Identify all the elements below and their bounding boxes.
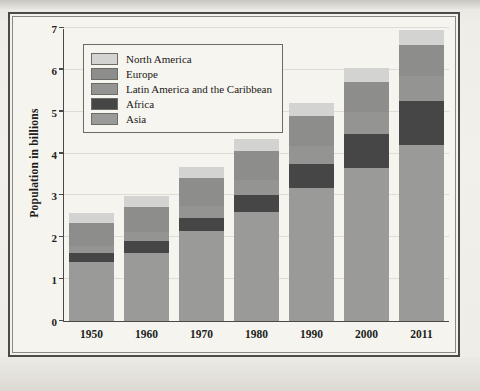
bar-segment-2000-asia[interactable] [344,168,389,321]
legend-swatch-icon [91,53,118,65]
legend-item-north-america[interactable]: North America [91,51,272,66]
bar-group-1990[interactable]: 1990 [289,29,334,321]
bar-segment-1970-north-america[interactable] [179,167,224,178]
bar-segment-1970-africa[interactable] [179,218,224,231]
bar-segment-1950-africa[interactable] [69,253,114,263]
legend-item-label: North America [126,53,192,65]
bar-segment-1990-europe[interactable] [289,116,334,146]
legend-swatch-icon [91,68,118,80]
y-axis-tick-7: 7 [35,23,57,35]
bar-segment-1960-europe[interactable] [124,207,169,232]
bar-segment-1980-latin-america-and-the-caribbean[interactable] [234,180,279,195]
y-axis-tick-4: 4 [35,149,57,161]
bar-segment-1960-asia[interactable] [124,253,169,321]
legend-swatch-icon [91,83,118,95]
y-axis-tick-1: 1 [35,274,57,286]
gridline-7 [64,27,449,28]
chart-figure-frame: Population in billions 01234567 19501960… [8,12,460,357]
bar-segment-1990-asia[interactable] [289,188,334,321]
legend-item-asia[interactable]: Asia [91,111,272,126]
y-axis-tick-labels: 01234567 [35,17,57,358]
legend-item-europe[interactable]: Europe [91,66,272,81]
bar-segment-2000-north-america[interactable] [344,68,389,82]
bar-segment-1960-africa[interactable] [124,241,169,253]
chart-figure-inner-border: Population in billions 01234567 19501960… [12,16,456,353]
bar-segment-2000-europe[interactable] [344,82,389,113]
legend-swatch-icon [91,98,118,110]
bar-segment-1950-north-america[interactable] [69,213,114,223]
bar-segment-2011-asia[interactable] [399,145,444,321]
bar-segment-2000-africa[interactable] [344,134,389,168]
legend-swatch-icon [91,113,118,125]
y-axis-tick-3: 3 [35,190,57,202]
legend-item-latin-america-and-the-caribbean[interactable]: Latin America and the Caribbean [91,81,272,96]
bar-segment-1950-latin-america-and-the-caribbean[interactable] [69,246,114,253]
bar-segment-1990-africa[interactable] [289,164,334,188]
bar-segment-1980-asia[interactable] [234,212,279,321]
bar-group-2011[interactable]: 2011 [399,29,444,321]
legend-item-label: Latin America and the Caribbean [126,83,272,95]
chart-plot-wrapper: Population in billions 01234567 19501960… [13,17,461,358]
y-axis-tick-2: 2 [35,232,57,244]
bar-segment-2011-europe[interactable] [399,45,444,76]
legend-item-africa[interactable]: Africa [91,96,272,111]
y-axis-tick-0: 0 [35,316,57,328]
bar-segment-2000-latin-america-and-the-caribbean[interactable] [344,112,389,134]
x-axis-label-2011: 2011 [386,328,457,340]
chart-legend: North AmericaEuropeLatin America and the… [83,44,283,133]
bar-segment-1950-asia[interactable] [69,262,114,321]
bar-segment-1980-africa[interactable] [234,195,279,212]
bar-segment-1990-north-america[interactable] [289,103,334,116]
bar-segment-2011-north-america[interactable] [399,30,444,45]
y-axis-tick-5: 5 [35,107,57,119]
bar-segment-1960-latin-america-and-the-caribbean[interactable] [124,232,169,241]
bar-segment-1980-north-america[interactable] [234,139,279,151]
legend-item-label: Asia [126,113,146,125]
bar-segment-1960-north-america[interactable] [124,196,169,206]
bar-segment-2011-africa[interactable] [399,101,444,145]
bar-segment-1970-europe[interactable] [179,178,224,206]
bar-segment-2011-latin-america-and-the-caribbean[interactable] [399,76,444,101]
bar-segment-1980-europe[interactable] [234,151,279,180]
bar-group-2000[interactable]: 2000 [344,29,389,321]
bar-segment-1970-asia[interactable] [179,231,224,321]
legend-item-label: Europe [126,68,158,80]
bar-segment-1970-latin-america-and-the-caribbean[interactable] [179,206,224,218]
bar-segment-1950-europe[interactable] [69,223,114,246]
legend-item-label: Africa [126,98,154,110]
y-axis-tick-6: 6 [35,65,57,77]
y-tickmark-7 [59,27,64,28]
bar-segment-1990-latin-america-and-the-caribbean[interactable] [289,146,334,164]
